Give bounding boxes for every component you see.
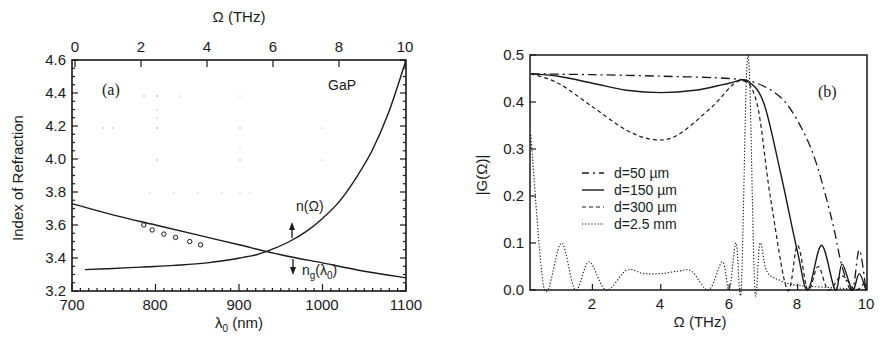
figure: 3.2 3.4 3.6 3.8 4.0 4.2 4.4 4.6 700 800 … bbox=[0, 0, 888, 351]
panel-b-x-tick-labels: 2 4 6 8 10 bbox=[588, 295, 875, 312]
x-tick-label: 1000 bbox=[305, 296, 338, 313]
panel-a-y-tick-labels: 3.2 3.4 3.6 3.8 4.0 4.2 4.4 4.6 bbox=[45, 51, 66, 299]
panel-b-y-tick-labels: 0.0 0.1 0.2 0.3 0.4 0.5 bbox=[503, 46, 524, 298]
top-tick-label: 6 bbox=[269, 38, 277, 55]
x-tick-label: 2 bbox=[588, 295, 596, 312]
ng-lambda-curve bbox=[72, 204, 406, 278]
panel-a-y-axis-title: Index of Refraction bbox=[9, 115, 26, 241]
y-tick-label: 0.5 bbox=[503, 46, 524, 63]
y-tick-label: 0.2 bbox=[503, 187, 524, 204]
x-tick-label: 6 bbox=[725, 295, 733, 312]
panel-a-top-tick-labels: 0 2 4 6 8 10 bbox=[71, 38, 414, 55]
legend-item: d=300 µm bbox=[582, 199, 677, 215]
ng-lambda-label: ng(λ0) bbox=[302, 262, 337, 281]
legend-item: d=150 µm bbox=[582, 182, 677, 198]
top-tick-label: 4 bbox=[203, 38, 211, 55]
panel-b-y-ticks bbox=[530, 55, 536, 290]
material-label: GaP bbox=[328, 77, 356, 93]
up-arrow-icon bbox=[289, 222, 295, 238]
panel-a-y-ticks bbox=[72, 60, 406, 291]
x-tick-label: 8 bbox=[793, 295, 801, 312]
y-tick-label: 3.6 bbox=[45, 216, 66, 233]
y-tick-label: 0.0 bbox=[503, 281, 524, 298]
top-tick-label: 0 bbox=[71, 38, 79, 55]
legend: d=50 µm d=150 µm d=300 µm d=2.5 mm bbox=[582, 165, 677, 232]
y-tick-label: 4.2 bbox=[45, 117, 66, 134]
n-omega-label: n(Ω) bbox=[296, 198, 324, 214]
top-tick-label: 8 bbox=[335, 38, 343, 55]
panel-b-x-axis-title: Ω (THz) bbox=[674, 313, 727, 330]
x-tick-label: 900 bbox=[226, 296, 251, 313]
curve-d-50um bbox=[531, 74, 866, 291]
y-tick-label: 4.0 bbox=[45, 150, 66, 167]
svg-text:d=150 µm: d=150 µm bbox=[614, 182, 677, 198]
curve-d-150um bbox=[531, 74, 866, 290]
top-tick-label: 2 bbox=[137, 38, 145, 55]
svg-text:d=300 µm: d=300 µm bbox=[614, 199, 677, 215]
panel-b-label: (b) bbox=[818, 83, 837, 101]
panel-a-x-ticks bbox=[72, 284, 406, 291]
panel-a-frame bbox=[72, 60, 406, 291]
x-tick-label: 800 bbox=[142, 296, 167, 313]
panel-a-top-ticks bbox=[75, 60, 405, 67]
x-tick-label: 4 bbox=[656, 295, 664, 312]
panel-b: 0.0 0.1 0.2 0.3 0.4 0.5 2 4 6 8 10 Ω (TH… bbox=[473, 46, 874, 330]
panel-a-label: (a) bbox=[102, 81, 120, 99]
x-tick-label: 700 bbox=[59, 296, 84, 313]
measured-points bbox=[142, 223, 203, 247]
curve-d-300um bbox=[531, 74, 866, 291]
y-tick-label: 0.3 bbox=[503, 140, 524, 157]
legend-item: d=2.5 mm bbox=[582, 216, 677, 232]
svg-text:d=2.5 mm: d=2.5 mm bbox=[614, 216, 677, 232]
y-tick-label: 4.6 bbox=[45, 51, 66, 68]
x-tick-label: 10 bbox=[858, 295, 875, 312]
panel-a: 3.2 3.4 3.6 3.8 4.0 4.2 4.4 4.6 700 800 … bbox=[9, 8, 422, 334]
y-tick-label: 0.4 bbox=[503, 93, 524, 110]
x-tick-label: 1100 bbox=[390, 296, 422, 313]
panel-b-y-axis-title: |G(Ω)| bbox=[473, 155, 490, 196]
panel-a-x-tick-labels: 700 800 900 1000 1100 bbox=[59, 296, 422, 313]
top-tick-label: 10 bbox=[397, 38, 414, 55]
y-tick-label: 3.8 bbox=[45, 183, 66, 200]
panel-a-top-axis-title: Ω (THz) bbox=[213, 8, 266, 25]
legend-item: d=50 µm bbox=[582, 165, 669, 181]
panel-a-x-axis-title: λ0 (nm) bbox=[215, 314, 263, 334]
y-tick-label: 0.1 bbox=[503, 234, 524, 251]
svg-text:d=50 µm: d=50 µm bbox=[614, 165, 669, 181]
panel-a-scan-dots bbox=[102, 95, 322, 193]
n-omega-curve bbox=[85, 63, 405, 269]
y-tick-label: 4.4 bbox=[45, 84, 66, 101]
y-tick-label: 3.4 bbox=[45, 249, 66, 266]
down-arrow-icon bbox=[290, 259, 296, 275]
